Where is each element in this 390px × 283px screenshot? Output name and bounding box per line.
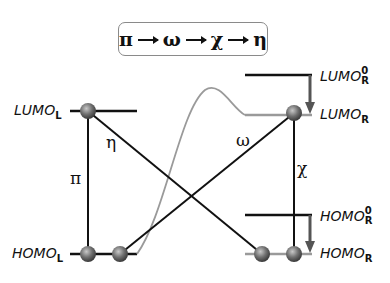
homo-r-node-2: [286, 246, 302, 262]
label-base: HOMO: [12, 245, 57, 261]
label-base: LUMO: [320, 68, 361, 84]
label-supsub: 0R: [361, 66, 369, 86]
homo-l-label: HOMOL: [12, 246, 63, 260]
homo-r0-label: HOMO0R: [320, 207, 372, 227]
label-subscript: R: [365, 253, 373, 264]
chi-label: χ: [297, 160, 307, 177]
label-base: LUMO: [14, 102, 55, 118]
pi-label: π: [70, 170, 81, 187]
lumo-l-label: LUMOL: [14, 103, 62, 117]
homo-r-label: HOMOR: [320, 246, 372, 260]
arrow-down-icon: [305, 102, 315, 114]
lumo-r-label: LUMOR: [320, 107, 369, 121]
eta-label: η: [106, 134, 116, 151]
label-supsub: 0R: [365, 206, 373, 226]
label-subscript: R: [365, 216, 373, 226]
arrow-down-icon: [305, 241, 315, 253]
label-base: LUMO: [320, 106, 361, 122]
label-subscript: R: [361, 114, 369, 125]
homo-r-node-1: [254, 246, 270, 262]
omega-transition-line: [120, 113, 294, 254]
label-subscript: R: [361, 76, 369, 86]
label-base: HOMO: [320, 245, 365, 261]
energy-curve: [137, 88, 245, 254]
lumo-r0-label: LUMO0R: [320, 67, 369, 87]
homo-l-node-1: [80, 246, 96, 262]
label-subscript: L: [55, 110, 61, 121]
lumo-r-node: [286, 105, 302, 121]
label-base: HOMO: [320, 208, 365, 224]
label-subscript: L: [57, 253, 63, 264]
lumo-l-node: [80, 103, 96, 119]
homo-l-node-2: [112, 246, 128, 262]
energy-level-diagram: [0, 0, 390, 283]
omega-label: ω: [236, 132, 250, 149]
